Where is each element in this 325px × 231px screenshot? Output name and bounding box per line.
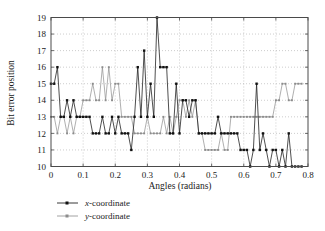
y-tick-label: 12 xyxy=(37,129,46,139)
x-axis-title: Angles (radians) xyxy=(148,181,211,192)
x-tick-label: 0.3 xyxy=(142,170,154,180)
legend-label-x: x-coordinate xyxy=(84,198,130,208)
chart-background xyxy=(0,0,325,231)
bit-error-position-chart: 1011121314151617181900.10.20.30.40.50.60… xyxy=(0,0,325,231)
x-tick-label: 0.1 xyxy=(78,170,89,180)
y-tick-label: 11 xyxy=(37,145,46,155)
y-tick-label: 15 xyxy=(37,79,47,89)
y-tick-label: 13 xyxy=(37,112,47,122)
x-tick-label: 0.6 xyxy=(238,170,250,180)
y-tick-label: 17 xyxy=(37,46,47,56)
y-tick-label: 10 xyxy=(37,162,47,172)
x-tick-label: 0 xyxy=(49,170,54,180)
x-tick-label: 0.7 xyxy=(270,170,282,180)
x-tick-label: 0.5 xyxy=(206,170,218,180)
x-tick-label: 0.8 xyxy=(302,170,314,180)
figure-container: 1011121314151617181900.10.20.30.40.50.60… xyxy=(0,0,325,231)
x-tick-label: 0.2 xyxy=(110,170,121,180)
legend-marker-y-icon xyxy=(66,215,69,218)
legend-marker-x-icon xyxy=(66,202,69,205)
y-axis-title: Bit error position xyxy=(6,60,16,126)
legend-label-y: y-coordinate xyxy=(84,211,130,221)
y-tick-label: 18 xyxy=(37,29,47,39)
y-tick-label: 14 xyxy=(37,95,47,105)
y-tick-label: 19 xyxy=(37,13,47,23)
y-tick-label: 16 xyxy=(37,62,47,72)
x-tick-label: 0.4 xyxy=(174,170,186,180)
